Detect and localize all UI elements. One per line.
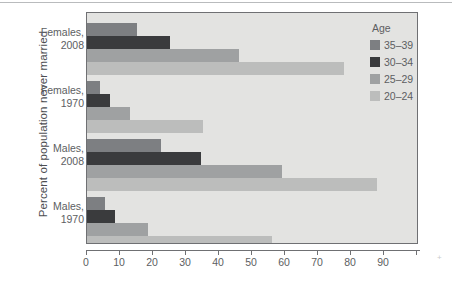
bar — [87, 62, 344, 75]
bar — [87, 120, 203, 133]
category-axis-labels: Females, 2008 Females, 1970 Males, 2008 … — [20, 12, 84, 244]
x-tick-label: 60 — [269, 256, 299, 268]
legend-label: 30–34 — [384, 56, 413, 68]
x-tick — [251, 250, 252, 255]
bar — [87, 178, 377, 191]
top-rule — [0, 2, 452, 3]
bar — [87, 23, 137, 36]
category-label-males-1970: Males, 1970 — [20, 200, 84, 225]
x-tick-label: 0 — [71, 256, 101, 268]
bar — [87, 236, 272, 243]
bar — [87, 36, 170, 49]
x-tick — [284, 250, 285, 255]
bar — [87, 223, 148, 236]
plot-area — [86, 12, 418, 244]
legend-swatch-icon — [370, 74, 380, 84]
legend-swatch-icon — [370, 57, 380, 67]
x-tick-label: 20 — [137, 256, 167, 268]
legend-label: 35–39 — [384, 39, 413, 51]
x-tick — [350, 250, 351, 255]
legend-item: 25–29 — [370, 73, 448, 85]
bar — [87, 210, 115, 223]
x-tick — [86, 250, 87, 255]
x-axis-line — [86, 250, 420, 251]
bar — [87, 152, 201, 165]
x-tick — [152, 250, 153, 255]
x-tick-label: 70 — [302, 256, 332, 268]
category-label-males-2008: Males, 2008 — [20, 142, 84, 167]
legend: Age 35–3930–3425–2920–24 — [370, 22, 448, 107]
category-label-line1: Males, — [20, 142, 84, 155]
bar — [87, 197, 105, 210]
x-tick — [119, 250, 120, 255]
legend-label: 25–29 — [384, 73, 413, 85]
x-tick — [416, 250, 417, 255]
legend-label: 20–24 — [384, 90, 413, 102]
x-tick-label: 90 — [368, 256, 398, 268]
bar — [87, 165, 282, 178]
x-tick-label: 40 — [203, 256, 233, 268]
legend-swatch-icon — [370, 40, 380, 50]
legend-title: Age — [372, 22, 448, 34]
x-tick — [383, 250, 384, 255]
category-label-females-2008: Females, 2008 — [20, 26, 84, 51]
category-label-line2: 2008 — [20, 39, 84, 52]
chart-figure: Percent of population never married Fema… — [0, 0, 452, 283]
category-label-line2: 1970 — [20, 213, 84, 226]
bar — [87, 94, 110, 107]
category-label-line1: Females, — [20, 26, 84, 39]
x-tick — [317, 250, 318, 255]
legend-swatch-icon — [370, 91, 380, 101]
legend-items: 35–3930–3425–2920–24 — [370, 39, 448, 102]
x-tick — [185, 250, 186, 255]
category-label-females-1970: Females, 1970 — [20, 84, 84, 109]
registration-mark: + — [437, 253, 442, 262]
legend-item: 20–24 — [370, 90, 448, 102]
bar — [87, 107, 130, 120]
bar — [87, 81, 100, 94]
x-tick-label: 80 — [335, 256, 365, 268]
legend-item: 35–39 — [370, 39, 448, 51]
bar — [87, 139, 161, 152]
x-tick-label: 30 — [170, 256, 200, 268]
x-tick-label: 10 — [104, 256, 134, 268]
bars-container — [87, 13, 417, 243]
bar — [87, 49, 239, 62]
x-tick — [218, 250, 219, 255]
category-label-line1: Males, — [20, 200, 84, 213]
category-label-line1: Females, — [20, 84, 84, 97]
x-tick-label: 50 — [236, 256, 266, 268]
category-label-line2: 2008 — [20, 155, 84, 168]
category-label-line2: 1970 — [20, 97, 84, 110]
legend-item: 30–34 — [370, 56, 448, 68]
